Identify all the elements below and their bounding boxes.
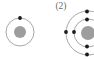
atom-right-shell-2-electron (64, 30, 68, 34)
atom-right-label: (2) (55, 1, 66, 12)
atom-right (64, 10, 94, 57)
atom-left (6, 16, 34, 46)
atom-right-nucleus (81, 26, 94, 40)
atom-right-shell-1-electron (85, 18, 89, 22)
figure-canvas: (2) (0, 0, 94, 59)
atom-left-electron (18, 16, 22, 20)
atom-right-shell-2-electron (85, 10, 89, 14)
atom-right-shell-1-electron (85, 45, 89, 49)
atom-right-shell-2-electron (85, 53, 89, 57)
bohr-atom-figure: (2) (0, 0, 94, 59)
atom-left-nucleus (14, 26, 26, 38)
atom-right-shell-1-electron (72, 30, 76, 34)
